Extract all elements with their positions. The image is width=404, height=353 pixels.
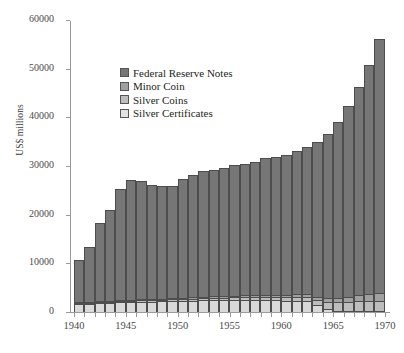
- x-axis-tick: [74, 313, 75, 317]
- bar-segment: [115, 302, 125, 312]
- x-axis-tick: [385, 313, 386, 317]
- x-axis-tick: [281, 313, 282, 317]
- x-axis-tick: [271, 313, 272, 317]
- bar-segment: [105, 303, 115, 312]
- bar-group: [74, 16, 385, 312]
- bar-segment: [343, 311, 353, 312]
- x-axis-tick: [147, 313, 148, 317]
- bar-segment: [250, 162, 260, 295]
- bar: [271, 16, 281, 312]
- bar-segment: [178, 301, 188, 312]
- x-axis-tick: [292, 313, 293, 317]
- bar-segment: [126, 302, 136, 312]
- bar-segment: [240, 300, 250, 312]
- bar-segment: [374, 311, 384, 312]
- bar-segment: [333, 311, 343, 312]
- legend-swatch-icon: [120, 68, 129, 77]
- bar-segment: [354, 87, 364, 296]
- bar: [302, 16, 312, 312]
- legend-label: Minor Coin: [133, 80, 185, 92]
- bar-segment: [147, 185, 157, 299]
- x-axis-tick: [364, 313, 365, 317]
- y-axis-tick: [66, 69, 70, 70]
- bar: [115, 16, 125, 312]
- bar: [240, 16, 250, 312]
- x-tick-label: 1945: [115, 320, 136, 331]
- bar-segment: [105, 210, 115, 301]
- bar-segment: [136, 302, 146, 312]
- y-axis-tick: [66, 215, 70, 216]
- bar: [323, 16, 333, 312]
- bar: [198, 16, 208, 312]
- bar: [219, 16, 229, 312]
- bar-segment: [323, 309, 333, 312]
- y-axis-tick: [66, 263, 70, 264]
- bar-segment: [157, 186, 167, 299]
- bar-segment: [188, 301, 198, 312]
- y-axis-tick: [66, 166, 70, 167]
- legend-label: Federal Reserve Notes: [133, 67, 233, 79]
- bar-segment: [219, 168, 229, 296]
- bar: [343, 16, 353, 312]
- y-tick-label: 60000: [8, 14, 54, 24]
- bar-segment: [343, 106, 353, 297]
- bar-segment: [147, 302, 157, 312]
- bar-segment: [292, 301, 302, 312]
- bar: [364, 16, 374, 312]
- bar-segment: [260, 158, 270, 295]
- bar-segment: [84, 247, 94, 302]
- legend-item: Minor Coin: [120, 80, 233, 94]
- x-axis-tick: [344, 313, 345, 317]
- bar-segment: [281, 301, 291, 312]
- x-axis-tick: [312, 313, 313, 317]
- y-axis-tick: [66, 117, 70, 118]
- bar: [188, 16, 198, 312]
- x-axis-tick-labels: 1940194519501955196019651970: [70, 320, 400, 338]
- x-axis-tick: [354, 313, 355, 317]
- bar: [229, 16, 239, 312]
- legend-item: Silver Coins: [120, 93, 233, 107]
- bar: [260, 16, 270, 312]
- bar-segment: [374, 301, 384, 311]
- bar: [333, 16, 343, 312]
- y-tick-label: 0: [8, 306, 54, 316]
- bar-segment: [95, 223, 105, 301]
- bar-segment: [333, 302, 343, 311]
- bar: [354, 16, 364, 312]
- bar-segment: [219, 300, 229, 312]
- x-axis-tick: [250, 313, 251, 317]
- x-axis-tick: [95, 313, 96, 317]
- bar-segment: [354, 311, 364, 312]
- x-tick-label: 1950: [167, 320, 188, 331]
- x-axis-tick: [230, 313, 231, 317]
- bar-segment: [333, 122, 343, 298]
- bar: [374, 16, 384, 312]
- bar: [281, 16, 291, 312]
- legend-item: Silver Certificates: [120, 107, 233, 121]
- bar: [147, 16, 157, 312]
- legend-item: Federal Reserve Notes: [120, 66, 233, 80]
- x-axis-tick: [136, 313, 137, 317]
- bar-segment: [312, 142, 322, 297]
- bar-segment: [209, 300, 219, 312]
- plot-area: [70, 16, 390, 313]
- bar-segment: [323, 134, 333, 298]
- bar: [157, 16, 167, 312]
- bar-segment: [95, 303, 105, 312]
- bar: [250, 16, 260, 312]
- bar-segment: [250, 300, 260, 312]
- x-axis-tick: [84, 313, 85, 317]
- y-tick-label: 40000: [8, 111, 54, 121]
- bar: [178, 16, 188, 312]
- bar-segment: [364, 65, 374, 295]
- bar: [84, 16, 94, 312]
- x-tick-label: 1940: [64, 320, 85, 331]
- y-tick-label: 50000: [8, 63, 54, 73]
- legend: Federal Reserve NotesMinor CoinSilver Co…: [120, 66, 233, 120]
- bar-segment: [126, 180, 136, 300]
- legend-label: Silver Coins: [133, 94, 188, 106]
- bar: [95, 16, 105, 312]
- bar-segment: [323, 302, 333, 309]
- y-axis-line: [70, 21, 71, 313]
- x-axis-tick: [302, 313, 303, 317]
